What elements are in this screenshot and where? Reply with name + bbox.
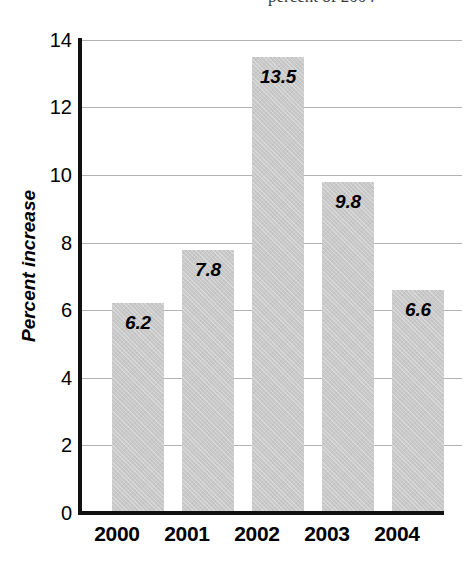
bar-value-label-2004: 6.6 <box>392 299 444 321</box>
x-axis-line <box>78 511 444 515</box>
x-tick-2000: 2000 <box>86 522 148 546</box>
bar-value-label-2001: 7.8 <box>182 259 234 281</box>
x-tick-2001: 2001 <box>156 522 218 546</box>
y-tick-2: 2 <box>36 435 72 455</box>
x-tick-2002: 2002 <box>226 522 288 546</box>
y-axis-line <box>78 38 82 515</box>
bar-value-label-2000: 6.2 <box>112 312 164 334</box>
y-axis-title: Percent increase <box>18 186 40 346</box>
bar-chart-figure: 6.2 7.8 13.5 9.8 6.6 14 12 10 8 6 4 2 0 … <box>0 0 475 575</box>
y-tick-4: 4 <box>36 368 72 388</box>
bar-value-label-2003: 9.8 <box>322 191 374 213</box>
plot-area: 6.2 7.8 13.5 9.8 6.6 <box>81 40 462 513</box>
y-tick-8: 8 <box>36 233 72 253</box>
bar-2004[interactable]: 6.6 <box>392 290 444 513</box>
y-tick-0: 0 <box>36 503 72 523</box>
bar-2002[interactable]: 13.5 <box>252 57 304 513</box>
y-tick-12: 12 <box>36 97 72 117</box>
y-tick-14: 14 <box>36 30 72 50</box>
x-tick-2003: 2003 <box>296 522 358 546</box>
gridline-14 <box>81 40 462 41</box>
x-tick-2004: 2004 <box>366 522 428 546</box>
y-tick-10: 10 <box>36 165 72 185</box>
bar-2001[interactable]: 7.8 <box>182 250 234 513</box>
bar-value-label-2002: 13.5 <box>252 66 304 88</box>
bar-2000[interactable]: 6.2 <box>112 303 164 513</box>
bar-2003[interactable]: 9.8 <box>322 182 374 513</box>
y-tick-6: 6 <box>36 300 72 320</box>
